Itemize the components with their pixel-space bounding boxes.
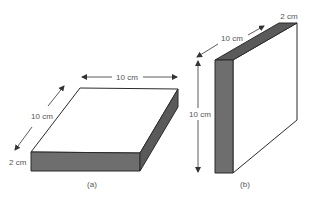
figure-a: 10 cm 10 cm 2 cm (a) — [9, 73, 178, 189]
label-b-thickness: 2 cm — [280, 12, 298, 21]
diagram-canvas: 10 cm 10 cm 2 cm (a) 10 cm 10 cm 2 cm (b… — [0, 0, 310, 197]
caption-a: (a) — [87, 180, 97, 189]
slab-a-front-face — [31, 152, 140, 171]
label-a-thickness: 2 cm — [9, 158, 27, 167]
label-b-height: 10 cm — [189, 110, 211, 119]
figure-b: 10 cm 10 cm 2 cm (b) — [189, 12, 298, 189]
label-a-depth: 10 cm — [31, 112, 53, 121]
arrow-a-depth-up — [48, 86, 64, 106]
arrow-a-depth-down — [15, 127, 32, 150]
label-a-width: 10 cm — [116, 73, 138, 82]
arrow-b-depth-left — [197, 44, 218, 57]
label-b-depth: 10 cm — [221, 34, 243, 43]
caption-b: (b) — [240, 180, 250, 189]
slab-b-front-face — [215, 60, 233, 173]
